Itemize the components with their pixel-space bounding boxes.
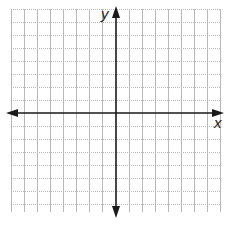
x-axis-label: x bbox=[213, 114, 222, 131]
y-axis-down-arrow-icon bbox=[112, 206, 120, 218]
coordinate-plane: x y bbox=[0, 0, 232, 225]
y-axis-label: y bbox=[100, 5, 110, 22]
axes bbox=[6, 6, 224, 218]
y-axis-up-arrow-icon bbox=[112, 6, 120, 18]
